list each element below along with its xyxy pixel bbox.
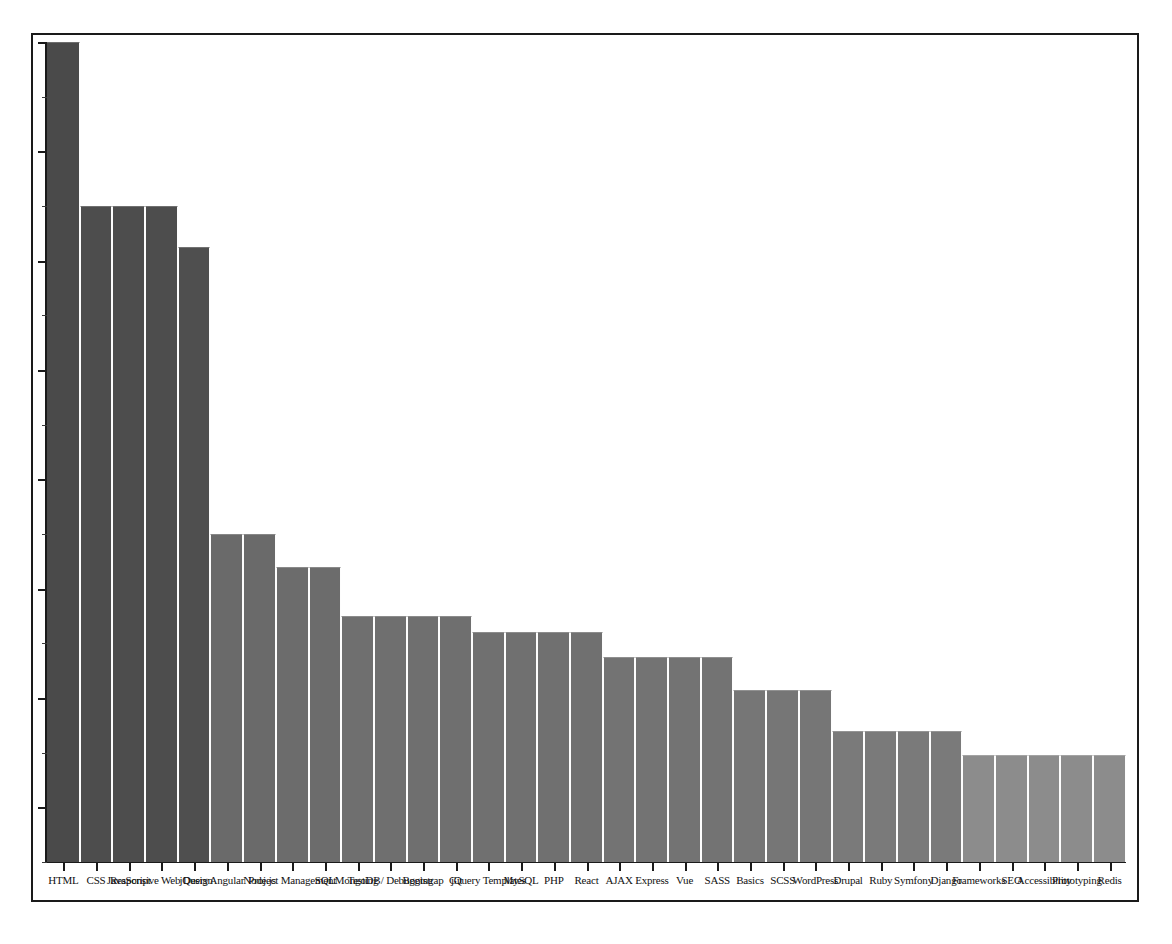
x-axis-tick-label: HTML: [48, 874, 78, 887]
y-axis-tick: [38, 370, 47, 372]
x-axis-tick: [456, 862, 458, 871]
bar: [930, 731, 963, 862]
x-axis-tick: [750, 862, 752, 871]
x-axis-tick: [161, 862, 163, 871]
bar: [439, 616, 472, 862]
x-axis-tick-label: Redis: [1098, 874, 1122, 887]
bar: [505, 632, 538, 862]
bar: [210, 534, 243, 862]
x-axis-tick-labels: HTMLCSSJavaScriptResponsive Web DesignjQ…: [47, 874, 1126, 896]
bar: [341, 616, 374, 862]
x-axis-tick-label: CSS: [87, 874, 106, 887]
y-axis-ticks: [33, 42, 47, 862]
x-axis-tick-label: SASS: [705, 874, 731, 887]
bar: [864, 731, 897, 862]
bar: [243, 534, 276, 862]
bar: [668, 657, 701, 862]
bar: [897, 731, 930, 862]
bar: [701, 657, 734, 862]
x-axis-tick: [652, 862, 654, 871]
bar: [145, 206, 178, 862]
x-axis-tick: [913, 862, 915, 871]
x-axis-tick: [815, 862, 817, 871]
x-axis-tick: [685, 862, 687, 871]
x-axis-tick-label: MySQL: [504, 874, 539, 887]
bar-series: [47, 42, 1126, 862]
x-axis-tick: [946, 862, 948, 871]
bar: [1093, 755, 1126, 862]
figure-canvas: HTMLCSSJavaScriptResponsive Web DesignjQ…: [0, 0, 1172, 944]
x-axis-tick: [717, 862, 719, 871]
x-axis-tick-label: Drupal: [833, 874, 862, 887]
bar: [276, 567, 309, 862]
x-axis-tick-label: Express: [635, 874, 668, 887]
x-axis-tick: [848, 862, 850, 871]
y-axis-tick: [38, 151, 47, 153]
x-axis-tick: [358, 862, 360, 871]
x-axis-tick: [260, 862, 262, 871]
bar: [995, 755, 1028, 862]
bar: [799, 690, 832, 862]
x-axis-tick: [979, 862, 981, 871]
y-axis-tick: [38, 42, 47, 44]
bar: [407, 616, 440, 862]
x-axis-tick: [783, 862, 785, 871]
x-axis-tick: [227, 862, 229, 871]
x-axis-ticks: [47, 862, 1126, 874]
plot-area: [47, 42, 1126, 862]
x-axis-tick: [587, 862, 589, 871]
bar: [1060, 755, 1093, 862]
x-axis-tick-label: Ruby: [869, 874, 892, 887]
bar: [832, 731, 865, 862]
x-axis-tick: [1012, 862, 1014, 871]
x-axis-tick-label: Prototyping: [1052, 874, 1102, 887]
x-axis-tick-label: WordPress: [793, 874, 839, 887]
bar: [309, 567, 342, 862]
x-axis-tick: [292, 862, 294, 871]
x-axis-tick-label: Vue: [676, 874, 693, 887]
x-axis-tick: [1077, 862, 1079, 871]
bar: [537, 632, 570, 862]
y-axis-tick: [38, 261, 47, 263]
x-axis-tick-label: Symfony: [894, 874, 933, 887]
bar: [47, 42, 80, 862]
x-axis-tick: [881, 862, 883, 871]
y-axis-tick: [38, 698, 47, 700]
x-axis-tick: [619, 862, 621, 871]
bar: [1028, 755, 1061, 862]
x-axis-tick: [554, 862, 556, 871]
x-axis-tick-label: Basics: [736, 874, 764, 887]
bar: [570, 632, 603, 862]
x-axis-tick: [521, 862, 523, 871]
x-axis-tick: [1110, 862, 1112, 871]
bar: [603, 657, 636, 862]
y-axis-tick: [38, 589, 47, 591]
x-axis-tick-label: AJAX: [606, 874, 633, 887]
bar: [80, 206, 113, 862]
bar: [962, 755, 995, 862]
x-axis-tick: [488, 862, 490, 871]
x-axis-tick: [423, 862, 425, 871]
x-axis-tick: [194, 862, 196, 871]
bar: [766, 690, 799, 862]
x-axis-tick-label: jQuery: [179, 874, 208, 887]
x-axis-tick-label: SCSS: [770, 874, 795, 887]
bar: [178, 247, 211, 862]
bar: [635, 657, 668, 862]
bar: [733, 690, 766, 862]
x-axis-tick-label: SQL: [315, 874, 335, 887]
bar: [374, 616, 407, 862]
x-axis-tick-label: Angular: [210, 874, 245, 887]
x-axis-tick: [96, 862, 98, 871]
bar: [472, 632, 505, 862]
x-axis-tick: [63, 862, 65, 871]
x-axis-tick: [1044, 862, 1046, 871]
x-axis-tick-label: Frameworks: [952, 874, 1005, 887]
x-axis-tick-label: PHP: [544, 874, 564, 887]
x-axis-tick: [325, 862, 327, 871]
x-axis-tick: [129, 862, 131, 871]
y-axis-tick: [38, 807, 47, 809]
y-axis-tick: [38, 479, 47, 481]
x-axis-tick: [390, 862, 392, 871]
x-axis-tick-label: React: [574, 874, 598, 887]
